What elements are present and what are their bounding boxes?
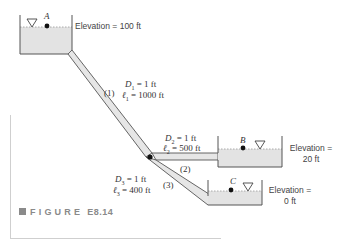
pipe-3 bbox=[146, 157, 212, 205]
pipe-2-tag: (2) bbox=[180, 164, 191, 174]
point-a-dot bbox=[45, 24, 50, 29]
junction-dot bbox=[147, 154, 152, 159]
point-c-label: C bbox=[230, 176, 236, 186]
caption-prefix: FIGURE bbox=[30, 207, 83, 217]
point-c-dot bbox=[229, 188, 234, 193]
elevation-b-line2: 20 ft bbox=[287, 154, 335, 164]
figure-caption: FIGUREE8.14 bbox=[19, 207, 113, 217]
water-level-triangle-icon bbox=[27, 19, 37, 27]
elevation-b-line1: Elevation = bbox=[287, 143, 335, 153]
pipe-3-tag: (3) bbox=[163, 180, 174, 190]
pipe-1-tag: (1) bbox=[104, 88, 115, 98]
caption-square-icon bbox=[19, 208, 26, 215]
point-b-label: B bbox=[240, 135, 246, 145]
water-level-triangle-icon bbox=[255, 141, 265, 149]
point-b-dot bbox=[241, 146, 246, 151]
elevation-a-label: Elevation = 100 ft bbox=[75, 21, 141, 31]
water-level-triangle-icon bbox=[243, 183, 253, 191]
reservoir-b bbox=[218, 136, 282, 167]
pipe-3-length: ℓ3 = 400 ft bbox=[113, 185, 151, 199]
pipe-1-length: ℓ1 = 1000 ft bbox=[122, 90, 164, 104]
caption-number: E8.14 bbox=[87, 207, 113, 217]
elevation-c-line2: 0 ft bbox=[266, 196, 314, 206]
elevation-c-line1: Elevation = bbox=[266, 185, 314, 195]
point-a-label: A bbox=[44, 11, 50, 21]
pipe-2-length: ℓ2 = 500 ft bbox=[163, 143, 201, 157]
